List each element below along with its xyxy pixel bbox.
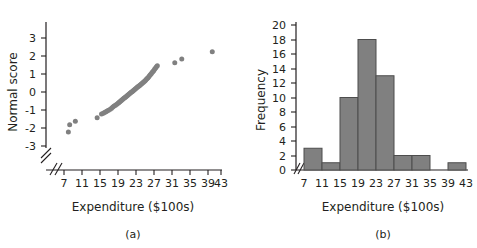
panel-a-x-axis-break-icon	[50, 163, 62, 175]
panel-b-xtick-31: 31	[405, 177, 419, 190]
scatter-point	[155, 63, 160, 68]
panel-b-ytick-12: 12	[272, 77, 286, 90]
panel-a-xtick-35: 35	[183, 177, 197, 190]
panel-a-y-axis-break-icon	[41, 148, 51, 163]
panel-b-xtick-39: 39	[441, 177, 455, 190]
histogram-bar	[412, 156, 430, 171]
scatter-point	[67, 122, 72, 127]
panel-a-normal-probability-plot: 3 2 1 0 -1 -2 -3 7 11 15	[0, 0, 238, 248]
panel-b-ytick-14: 14	[272, 63, 286, 76]
panel-b-ytick-18: 18	[272, 34, 286, 47]
scatter-point	[73, 119, 78, 124]
panel-a-y-ticks	[41, 38, 46, 146]
panel-a-caption: (a)	[125, 228, 140, 241]
panel-a-xtick-19: 19	[111, 177, 125, 190]
panel-b-histogram: 0 2 4 6 8 10 12 14 16 18 20 7 11 15 19 2…	[238, 0, 477, 248]
panel-a-xtick-39: 39	[201, 177, 215, 190]
panel-a-data-points	[66, 49, 215, 134]
panel-b-caption: (b)	[375, 228, 391, 241]
scatter-point	[66, 129, 71, 134]
panel-a-ytick-neg1: -1	[25, 104, 36, 117]
histogram-bar	[304, 148, 322, 170]
panel-b-ytick-16: 16	[272, 48, 286, 61]
panel-a-ytick-neg3: -3	[25, 140, 36, 153]
panel-a-xtick-43: 43	[214, 177, 228, 190]
panel-b-xtick-43: 43	[459, 177, 473, 190]
panel-b-ytick-10: 10	[272, 92, 286, 105]
panel-b-x-axis-title: Expenditure ($100s)	[322, 200, 445, 214]
panel-a-xtick-15: 15	[93, 177, 107, 190]
panel-b-xtick-19: 19	[351, 177, 365, 190]
panel-b-ytick-20: 20	[272, 19, 286, 32]
histogram-bar	[358, 40, 376, 171]
panel-b-xtick-35: 35	[423, 177, 437, 190]
panel-a-ytick-neg2: -2	[25, 122, 36, 135]
panel-a-xtick-27: 27	[147, 177, 161, 190]
panel-b-xtick-11: 11	[315, 177, 329, 190]
panel-b-y-axis-title: Frequency	[254, 69, 268, 131]
histogram-bar	[448, 163, 466, 170]
panel-a-ytick-1: 1	[29, 68, 36, 81]
panel-b-ytick-6: 6	[279, 121, 286, 134]
panel-a-xtick-31: 31	[165, 177, 179, 190]
panel-a-xtick-7: 7	[61, 177, 68, 190]
panel-b-y-ticks	[291, 25, 296, 170]
panel-b-svg: 0 2 4 6 8 10 12 14 16 18 20 7 11 15 19 2…	[238, 0, 477, 248]
panel-b-ytick-4: 4	[279, 135, 286, 148]
scatter-point	[172, 60, 177, 65]
scatter-point	[179, 56, 184, 61]
histogram-bar	[394, 156, 412, 171]
scatter-point	[210, 49, 215, 54]
histogram-bar	[340, 98, 358, 171]
panel-a-x-ticks	[64, 170, 221, 175]
histogram-bar	[322, 163, 340, 170]
panel-a-x-axis-title: Expenditure ($100s)	[72, 200, 195, 214]
panel-b-xtick-7: 7	[301, 177, 308, 190]
histogram-bar	[376, 76, 394, 170]
panel-a-ytick-0: 0	[29, 86, 36, 99]
panel-a-y-axis-title: Normal score	[6, 52, 20, 131]
scatter-point	[95, 115, 100, 120]
figure-container: 3 2 1 0 -1 -2 -3 7 11 15	[0, 0, 477, 248]
panel-a-svg: 3 2 1 0 -1 -2 -3 7 11 15	[0, 0, 238, 248]
panel-b-xtick-15: 15	[333, 177, 347, 190]
panel-b-bars	[304, 40, 466, 171]
panel-b-ytick-2: 2	[279, 150, 286, 163]
panel-a-ytick-3: 3	[29, 32, 36, 45]
panel-a-xtick-11: 11	[75, 177, 89, 190]
panel-b-xtick-23: 23	[369, 177, 383, 190]
panel-a-xtick-23: 23	[129, 177, 143, 190]
panel-a-ytick-2: 2	[29, 50, 36, 63]
panel-b-ytick-8: 8	[279, 106, 286, 119]
panel-b-xtick-27: 27	[387, 177, 401, 190]
panel-b-ytick-0: 0	[279, 164, 286, 177]
